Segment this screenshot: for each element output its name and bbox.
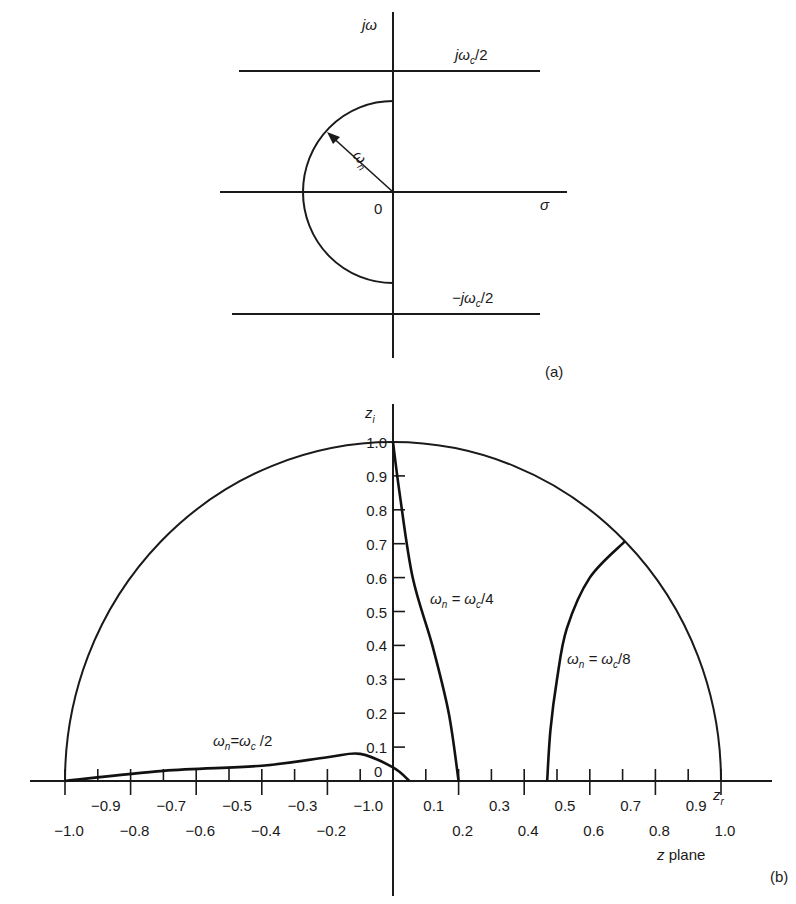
x-tick-label: 0.4 (518, 822, 539, 839)
y-tick-label: 0.4 (366, 637, 387, 654)
y-tick-label: 1.0 (366, 434, 387, 451)
figure: jω σ 0 jωc/2 −jωc/2 ωn (a) 1.00.90.80.70… (0, 0, 796, 904)
x-tick-label: 0.8 (649, 822, 670, 839)
x-tick-label: −0.6 (185, 822, 215, 839)
radius-label: ωn (348, 147, 375, 174)
curve-label-wc-8: ωn = ωc/8 (567, 650, 631, 670)
jw-axis-label: jω (360, 16, 377, 33)
tick-labels: 1.00.90.80.70.60.50.40.30.20.1−0.9−0.7−0… (54, 434, 735, 839)
y-tick-label: 0.7 (366, 536, 387, 553)
y-tick-label: 0.2 (366, 705, 387, 722)
zr-axis-label: zr (712, 786, 725, 807)
x-tick-label: 0.2 (452, 822, 473, 839)
x-tick-label: −0.7 (157, 797, 187, 814)
y-tick-label: 0.1 (366, 739, 387, 756)
panel-a-label: (a) (545, 363, 563, 380)
x-tick-label: −0.3 (288, 797, 318, 814)
y-tick-label: 0.6 (366, 570, 387, 587)
x-tick-label: −0.5 (222, 797, 252, 814)
origin-label-b: 0 (374, 763, 382, 780)
x-tick-label: −0.2 (317, 822, 347, 839)
z-plane-label: z plane (656, 846, 705, 863)
curve-label-wc-2: ωn=ωc /2 (213, 732, 272, 752)
curve-label-wc-4: ωn = ωc/4 (430, 590, 494, 610)
lower-line-label: −jωc/2 (452, 289, 493, 309)
svg-text:ωn: ωn (348, 147, 375, 174)
x-tick-label: 0.6 (583, 822, 604, 839)
panel-b: 1.00.90.80.70.60.50.40.30.20.1−0.9−0.7−0… (30, 404, 788, 896)
y-tick-label: 0.9 (366, 468, 387, 485)
x-tick-label: 0.5 (555, 797, 576, 814)
curve-wn-wc-2 (65, 753, 409, 781)
x-tick-label: −0.4 (251, 822, 281, 839)
panel-b-label: (b) (770, 868, 788, 885)
x-tick-label: −0.9 (91, 797, 121, 814)
x-tick-label: 0.9 (686, 797, 707, 814)
sigma-label: σ (540, 196, 550, 213)
upper-line-label: jωc/2 (453, 46, 488, 66)
x-tick-label: 0.1 (423, 797, 444, 814)
y-tick-label: 0.5 (366, 604, 387, 621)
x-tick-label: −0.8 (120, 822, 150, 839)
x-tick-label: 1.0 (715, 822, 736, 839)
x-tick-label: 0.7 (620, 797, 641, 814)
y-tick-label: 0.8 (366, 502, 387, 519)
zi-axis-label: zi (364, 404, 376, 425)
origin-label: 0 (374, 200, 382, 217)
x-tick-label: 0.3 (489, 797, 510, 814)
x-tick-label: −1.0 (353, 797, 383, 814)
panel-a: jω σ 0 jωc/2 −jωc/2 ωn (a) (220, 12, 567, 380)
y-tick-label: 0.3 (366, 671, 387, 688)
x-tick-label: −1.0 (54, 822, 84, 839)
